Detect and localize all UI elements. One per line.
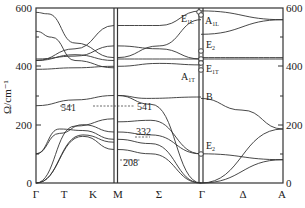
dispersion-branch xyxy=(201,154,283,160)
y-tick-right-0: 0 xyxy=(286,177,292,189)
dispersion-branch xyxy=(201,11,283,20)
dispersion-branch xyxy=(36,46,114,59)
x-label-m: M xyxy=(113,188,123,200)
x-label-delta: Δ xyxy=(239,188,246,200)
mode-b: B xyxy=(206,91,213,102)
dispersion-branch xyxy=(118,120,202,154)
dispersion-branch xyxy=(118,96,202,184)
annotation-541-right: 541 xyxy=(137,101,152,112)
y-tick-0: 0 xyxy=(27,177,33,189)
dispersion-branch xyxy=(201,98,283,129)
dispersion-branch xyxy=(36,119,114,183)
plot-frame xyxy=(36,8,283,183)
x-label-gamma-2: Γ xyxy=(199,188,205,200)
dispersion-branch xyxy=(36,31,114,68)
y-tick-right-600: 600 xyxy=(286,2,303,14)
dispersion-branch xyxy=(118,63,202,66)
y-tick-600: 600 xyxy=(16,2,33,14)
x-axis-labels: Γ T K M Σ Γ Δ A xyxy=(33,188,286,200)
x-label-gamma-1: Γ xyxy=(33,188,39,200)
y-tick-200: 200 xyxy=(16,119,33,131)
dispersion-branch xyxy=(201,160,283,183)
mode-e2-high: E2 xyxy=(206,39,215,51)
y-axis-right-labels: 600 400 200 0 xyxy=(286,2,303,189)
mode-a1l: A1L xyxy=(205,15,219,27)
dispersion-branch xyxy=(201,129,283,183)
mode-e2-low: E2 xyxy=(206,140,215,152)
dispersion-curves xyxy=(36,11,283,183)
gamma-mode-markers xyxy=(197,10,204,157)
dispersion-branch xyxy=(36,125,114,154)
y-tick-right-400: 400 xyxy=(286,60,303,72)
annotation-208: 208 xyxy=(123,157,138,168)
x-label-t: T xyxy=(61,188,68,200)
mode-e1t: E1T xyxy=(206,63,219,75)
annotations: 541 541 332 208 xyxy=(61,101,152,168)
y-tick-400: 400 xyxy=(16,60,33,72)
dispersion-branch xyxy=(118,46,202,59)
mode-a1t: A1T xyxy=(181,71,195,83)
y-tick-right-200: 200 xyxy=(286,119,303,131)
dispersion-branch xyxy=(36,66,114,69)
x-label-k: K xyxy=(89,188,97,200)
phonon-dispersion-chart: 600 400 200 0 Ω/cm⁻¹ 600 400 200 0 Γ T K… xyxy=(0,0,305,208)
mode-e1l: E1L xyxy=(181,13,194,25)
dispersion-branch xyxy=(36,12,114,57)
dispersion-branch xyxy=(36,129,114,154)
x-label-sigma: Σ xyxy=(156,188,162,200)
x-label-a: A xyxy=(278,188,286,200)
y-axis-title: Ω/cm⁻¹ xyxy=(1,80,13,114)
annotation-541-left: 541 xyxy=(61,102,76,113)
y-axis-left-labels: 600 400 200 0 xyxy=(16,2,33,189)
annotation-332: 332 xyxy=(136,126,151,137)
